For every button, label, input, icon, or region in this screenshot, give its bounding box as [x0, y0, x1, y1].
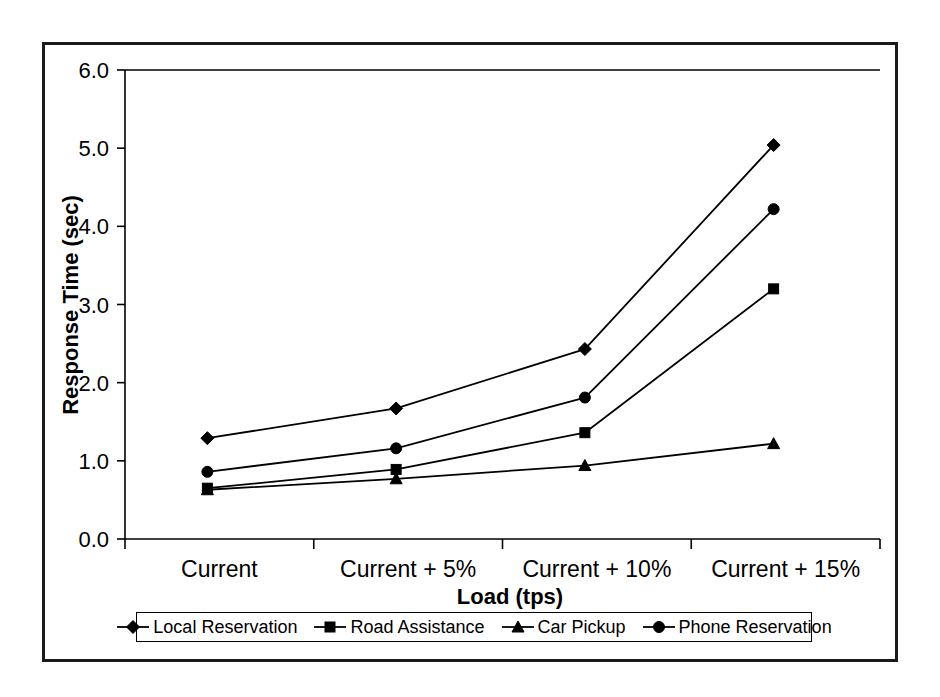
circle-marker [768, 204, 779, 215]
y-tick-label: 1.0 [78, 449, 109, 474]
x-axis-tick-marks [125, 539, 880, 549]
square-icon [313, 620, 347, 634]
triangle-marker [768, 438, 780, 449]
chart-legend: Local ReservationRoad AssistanceCar Pick… [136, 612, 812, 642]
series-phone-reservation [202, 204, 779, 478]
legend-item[interactable]: Road Assistance [305, 618, 492, 636]
y-axis-tick-marks [117, 70, 125, 539]
y-axis-title: Response Time (sec) [58, 195, 83, 415]
legend-item-label: Phone Reservation [679, 618, 832, 636]
y-tick-label: 5.0 [78, 136, 109, 161]
triangle-icon [501, 620, 535, 634]
diamond-marker [127, 621, 140, 634]
series-group [201, 139, 780, 495]
legend-item-label: Road Assistance [350, 618, 484, 636]
circle-marker [391, 443, 402, 454]
legend-item-label: Car Pickup [538, 618, 626, 636]
legend-item-label: Local Reservation [153, 618, 297, 636]
circle-marker [653, 622, 664, 633]
chart-figure: 0.01.02.03.04.05.06.0 CurrentCurrent + 5… [0, 0, 940, 697]
series-line [207, 145, 773, 438]
legend-item[interactable]: Phone Reservation [634, 618, 840, 636]
square-marker [580, 428, 590, 438]
x-category-label: Current + 10% [522, 556, 671, 582]
x-category-label: Current [181, 556, 258, 582]
series-line [207, 209, 773, 472]
series-car-pickup [201, 438, 779, 495]
x-axis-title: Load (tps) [457, 584, 563, 609]
square-marker [769, 284, 779, 294]
x-axis-category-labels: CurrentCurrent + 5%Current + 10%Current … [181, 556, 860, 582]
diamond-marker [201, 432, 214, 445]
square-marker [325, 622, 335, 632]
chart-plot-canvas: 0.01.02.03.04.05.06.0 CurrentCurrent + 5… [0, 0, 940, 697]
diamond-marker [390, 402, 403, 415]
circle-marker [579, 392, 590, 403]
x-category-label: Current + 15% [711, 556, 860, 582]
diamond-icon [116, 620, 150, 634]
series-local-reservation [201, 139, 780, 445]
x-category-label: Current + 5% [340, 556, 476, 582]
circle-icon [642, 620, 676, 634]
legend-item[interactable]: Local Reservation [108, 618, 305, 636]
legend-item[interactable]: Car Pickup [493, 618, 634, 636]
circle-marker [202, 466, 213, 477]
y-tick-label: 0.0 [78, 527, 109, 552]
y-tick-label: 6.0 [78, 58, 109, 83]
series-line [207, 289, 773, 488]
